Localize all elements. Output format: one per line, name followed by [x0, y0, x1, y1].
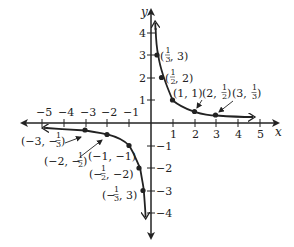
chart-canvas: −5 −4 −3 −2 −1 1 2 3 4 5 x 4 3 2 1 −1 −2… — [0, 0, 294, 247]
label-point-neg1-2-neg2: (− 1 2 , −2) — [89, 164, 134, 182]
svg-text:): ) — [257, 87, 261, 100]
svg-text:(3,: (3, — [232, 87, 247, 100]
x-tick-label: 2 — [192, 128, 199, 141]
data-point — [104, 132, 109, 137]
label-point-neg2-neg1-2: (−2, − 1 2 ) — [44, 151, 87, 169]
x-tick-label: −3 — [80, 106, 96, 119]
data-point — [126, 143, 131, 148]
svg-text:(−3, −: (−3, − — [21, 135, 58, 148]
data-point — [154, 52, 159, 57]
data-point — [136, 165, 141, 170]
label-point-1-2-2: ( 1 2 , 2) — [165, 68, 193, 86]
svg-text:(: ( — [160, 50, 164, 63]
x-tick-label: 3 — [213, 128, 220, 141]
y-tick-label: −2 — [156, 162, 172, 175]
svg-text:): ) — [227, 87, 231, 100]
svg-text:, −2): , −2) — [106, 168, 134, 181]
svg-text:(−2, −: (−2, − — [44, 155, 81, 168]
label-point-3-1-3: (3, 1 3 ) — [232, 83, 261, 101]
svg-text:, 2): , 2) — [175, 72, 193, 85]
y-tick-label: 3 — [139, 49, 146, 62]
data-point — [82, 127, 87, 132]
label-point-2-1-2: (2, 1 2 ) — [202, 83, 231, 101]
label-point-neg3-neg1-3: (−3, − 1 3 ) — [21, 131, 65, 149]
x-tick-label: −5 — [36, 106, 52, 119]
x-tick-label: 4 — [235, 128, 242, 141]
y-tick-label: 1 — [139, 94, 146, 107]
label-point-1-3-3: ( 1 3 , 3) — [160, 46, 188, 64]
svg-text:, 3): , 3) — [119, 189, 137, 202]
data-point — [140, 188, 145, 193]
y-tick-label: −4 — [156, 207, 172, 220]
y-tick-label: −1 — [156, 140, 172, 153]
svg-text:(2,: (2, — [202, 87, 217, 100]
x-axis-label: x — [275, 125, 282, 139]
label-point-1-1: (1, 1) — [173, 87, 203, 100]
y-axis-label: y — [140, 5, 148, 19]
x-tick-label: −2 — [101, 106, 117, 119]
svg-text:): ) — [83, 155, 87, 168]
label-point-neg1-neg1: (−1, −1) — [88, 150, 136, 163]
svg-text:(: ( — [165, 72, 169, 85]
y-tick-label: 2 — [139, 72, 146, 85]
svg-text:): ) — [61, 135, 65, 148]
label-point-neg1-3-3: (− 1 3 , 3) — [102, 185, 137, 203]
x-tick-label: 5 — [257, 128, 264, 141]
data-point — [213, 112, 218, 117]
data-point — [192, 109, 197, 114]
data-point — [159, 75, 164, 80]
y-tick-label: −3 — [156, 185, 172, 198]
x-tick-label: −4 — [58, 106, 74, 119]
svg-text:, 3): , 3) — [170, 50, 188, 63]
y-tick-label: 4 — [139, 27, 146, 40]
x-tick-label: −1 — [123, 106, 139, 119]
